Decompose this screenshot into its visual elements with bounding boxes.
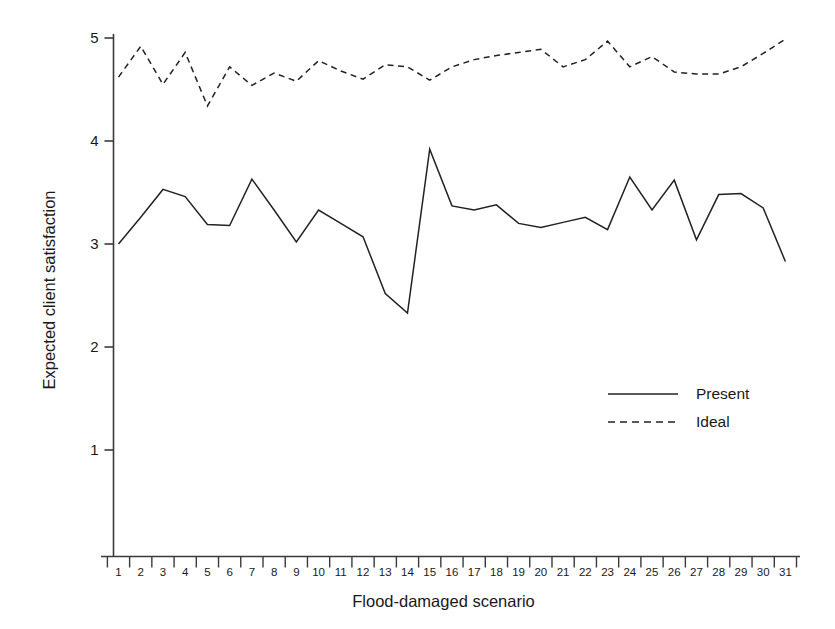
legend-item-present: Present xyxy=(608,380,749,408)
x-tick-label: 10 xyxy=(312,567,325,579)
x-tick-label: 12 xyxy=(357,567,370,579)
x-tick-label: 25 xyxy=(646,567,659,579)
x-tick-label: 30 xyxy=(757,567,770,579)
legend-label-ideal: Ideal xyxy=(696,413,730,431)
x-tick-label: 23 xyxy=(601,567,614,579)
y-tick-label: 1 xyxy=(73,442,99,457)
x-tick-label: 11 xyxy=(335,567,347,579)
x-tick-label: 21 xyxy=(557,567,570,579)
legend-item-ideal: Ideal xyxy=(608,408,749,436)
legend-label-present: Present xyxy=(696,385,749,403)
x-tick-label: 1 xyxy=(115,567,121,579)
x-tick-label: 9 xyxy=(293,567,299,579)
x-tick-label: 7 xyxy=(249,567,255,579)
x-tick-label: 29 xyxy=(735,567,748,579)
x-tick-label: 2 xyxy=(138,567,144,579)
x-tick-label: 27 xyxy=(690,567,703,579)
x-tick-label: 6 xyxy=(226,567,232,579)
chart-container: Expected client satisfaction 12345 12345… xyxy=(0,0,835,629)
x-tick-label: 28 xyxy=(712,567,725,579)
y-tick-label: 3 xyxy=(73,236,99,251)
plot-area xyxy=(0,0,835,629)
x-tick-label: 16 xyxy=(446,567,459,579)
series-line-ideal xyxy=(119,39,786,106)
x-tick-label: 3 xyxy=(160,567,166,579)
series-lines xyxy=(119,39,786,313)
x-axis-title: Flood-damaged scenario xyxy=(0,592,835,611)
x-tick-label: 13 xyxy=(379,567,392,579)
x-tick-label: 26 xyxy=(668,567,681,579)
x-tick-label: 14 xyxy=(401,567,414,579)
y-tick-marks xyxy=(105,38,114,450)
chart-legend: Present Ideal xyxy=(608,380,749,436)
x-tick-label: 24 xyxy=(623,567,636,579)
x-tick-label: 17 xyxy=(468,567,481,579)
y-tick-label: 2 xyxy=(73,339,99,354)
y-tick-label: 5 xyxy=(73,30,99,45)
x-tick-label: 18 xyxy=(490,567,503,579)
x-tick-label: 4 xyxy=(182,567,188,579)
legend-swatch-solid xyxy=(608,388,678,400)
x-tick-label: 8 xyxy=(271,567,277,579)
axis-lines xyxy=(101,34,800,557)
x-tick-label: 20 xyxy=(534,567,547,579)
x-tick-label: 15 xyxy=(423,567,436,579)
x-axis-title-text: Flood-damaged scenario xyxy=(300,592,535,610)
x-tick-label: 19 xyxy=(512,567,525,579)
legend-swatch-dashed xyxy=(608,416,678,428)
x-tick-label: 5 xyxy=(204,567,210,579)
x-tick-label: 31 xyxy=(779,567,792,579)
x-tick-label: 22 xyxy=(579,567,592,579)
series-line-present xyxy=(119,149,786,313)
y-tick-label: 4 xyxy=(73,133,99,148)
